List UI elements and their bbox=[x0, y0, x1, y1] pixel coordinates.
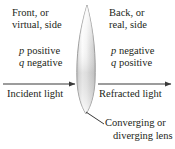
incident-light-label: Incident light bbox=[7, 88, 63, 100]
lens-caption-leader-line bbox=[86, 112, 104, 124]
back-side-label-line1: Back, or bbox=[109, 7, 145, 18]
left-q-sign: negative bbox=[24, 57, 62, 68]
front-side-label-line2: virtual, side bbox=[12, 19, 62, 30]
back-side-label-line2: real, side bbox=[109, 19, 147, 30]
right-p-sign: negative bbox=[116, 45, 154, 56]
front-side-label-line1: Front, or bbox=[12, 7, 49, 18]
right-q-sign: positive bbox=[116, 57, 152, 68]
biconvex-lens bbox=[77, 5, 95, 114]
front-side-label: Front, or virtual, side bbox=[12, 7, 62, 31]
lens-caption-line1: Converging or bbox=[105, 117, 166, 128]
left-p-sign: positive bbox=[24, 45, 60, 56]
refracted-light-label: Refracted light bbox=[99, 88, 162, 100]
back-side-label: Back, or real, side bbox=[109, 7, 147, 31]
lens-caption-line2: diverging lens bbox=[105, 130, 173, 143]
lens-caption-label: Converging or diverging lens bbox=[105, 117, 173, 142]
left-sign-convention-label: p positive q negative bbox=[19, 45, 62, 69]
right-sign-convention-label: p negative q positive bbox=[111, 45, 154, 69]
lens-sign-convention-figure: Front, or virtual, side Back, or real, s… bbox=[0, 0, 175, 149]
